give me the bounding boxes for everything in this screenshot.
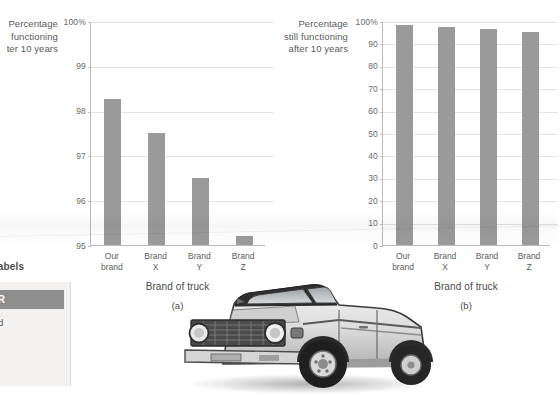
axis-tick-mark [380,201,383,202]
axis-tick-mark [380,112,383,113]
x-axis-category-label: Brand X [134,251,178,272]
gridline [383,22,558,23]
axis-tick-mark [88,156,91,157]
y-axis-tick-label: 10 [348,219,378,228]
axis-tick-mark [380,44,383,45]
plot-area-b [382,22,550,246]
x-axis-category-label: Brand Y [466,251,508,272]
y-axis-tick-label: 90 [348,40,378,49]
y-axis-tick-label: 70 [348,85,378,94]
pickup-truck-photo [163,272,446,396]
bar-our-brand [396,25,413,245]
axis-tick-mark [380,224,383,225]
remember-header: MEMBER [0,290,64,309]
axis-tick-mark [380,22,383,23]
axis-tick-mark [380,67,383,68]
bar-our-brand [104,99,121,245]
scale-labels-heading: e labels [0,261,24,272]
y-axis-tick-label: 80 [348,62,378,71]
x-axis-category-label: Brand X [424,251,466,272]
chart-full-scale [382,22,550,246]
bar-brand-x [148,133,165,245]
y-axis-tick-label: 20 [348,197,378,206]
x-axis-category-label: Our brand [90,251,134,272]
y-axis-tick-label: 30 [348,174,378,183]
axis-tick-mark [88,67,91,68]
y-axis-tick-label: 99 [56,62,86,71]
axis-tick-mark [88,22,91,23]
bar-brand-y [480,29,497,245]
bar-brand-x [438,27,455,245]
bar-brand-z [522,32,539,245]
chart-truncated-scale [90,22,265,246]
remember-body-text: cturer offered d names uch greater t doe… [0,309,70,386]
remember-callout-box: MEMBER cturer offered d names uch greate… [0,282,71,386]
axis-tick-mark [88,112,91,113]
axis-tick-mark [380,156,383,157]
y-axis-label-b: Percentage still functioning after 10 ye… [276,18,348,56]
bar-brand-y [192,178,209,245]
axis-tick-mark [88,246,91,247]
y-axis-tick-label: 40 [348,152,378,161]
x-axis-category-label: Our brand [382,251,424,272]
y-axis-label-a: Percentage functioning ter 10 years [0,18,58,56]
y-axis-tick-label: 60 [348,107,378,116]
x-axis-category-label: Brand Y [178,251,222,272]
bar-brand-z [236,236,253,245]
gridline [91,22,273,23]
x-axis-category-label: Brand Z [221,251,265,272]
y-axis-tick-label: 97 [56,152,86,161]
axis-tick-mark [380,179,383,180]
y-axis-tick-label: 0 [348,242,378,251]
y-axis-tick-label: 100% [348,18,378,27]
x-axis-category-label: Brand Z [508,251,550,272]
axis-tick-mark [380,246,383,247]
y-axis-tick-label: 98 [56,107,86,116]
y-axis-tick-label: 100% [56,18,86,27]
axis-tick-mark [88,201,91,202]
gridline [91,67,273,68]
axis-tick-mark [380,134,383,135]
y-axis-tick-label: 95 [56,242,86,251]
axis-tick-mark [380,89,383,90]
y-axis-tick-label: 96 [56,197,86,206]
y-axis-tick-label: 50 [348,130,378,139]
plot-area-a [90,22,265,246]
